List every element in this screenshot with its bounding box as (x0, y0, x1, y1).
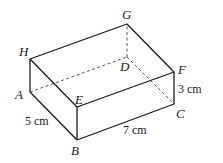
cuboid-diagram: G H D F A E C B 5 cm 7 cm 3 cm (0, 0, 223, 163)
vertex-label-C: C (176, 106, 185, 121)
dimension-label-CF: 3 cm (178, 82, 202, 96)
top-face (30, 24, 174, 107)
dimension-label-BC: 7 cm (123, 123, 147, 137)
vertex-label-F: F (177, 62, 187, 77)
vertex-label-A: A (14, 87, 23, 102)
vertex-label-E: E (74, 92, 83, 107)
vertex-label-G: G (122, 7, 132, 22)
vertex-label-H: H (18, 44, 29, 59)
vertex-label-D: D (119, 59, 130, 74)
vertex-label-B: B (71, 143, 79, 158)
dimension-label-AB: 5 cm (25, 114, 49, 128)
